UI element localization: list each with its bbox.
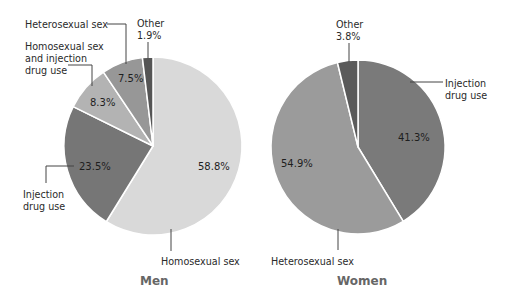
label-heterosexual-men: Heterosexual sex (25, 19, 108, 30)
label-homosexual-men: Homosexual sex (161, 256, 240, 267)
pct-injection-women: 41.3% (398, 132, 430, 143)
men-pie-chart (64, 57, 242, 235)
label-other-pct-women: 3.8% (336, 31, 360, 42)
women-title: Women (337, 274, 387, 288)
label-injection-women-line1: Injection (445, 78, 486, 89)
label-injection-women-line2: drug use (445, 90, 487, 101)
pct-homosexual-men: 58.8% (198, 161, 230, 172)
pie-charts-figure: Heterosexual sex Other 1.9% Homosexual s… (0, 0, 506, 303)
label-homo-inj-line1: Homosexual sex (25, 41, 104, 52)
label-other-men: Other (137, 18, 164, 29)
label-injection-men-line1: Injection (23, 189, 64, 200)
pct-homo-inj-men: 8.3% (90, 97, 115, 108)
men-title: Men (140, 274, 169, 288)
pct-heterosexual-women: 54.9% (281, 158, 313, 169)
label-homo-inj-line3: drug use (25, 65, 67, 76)
label-other-women: Other (336, 19, 363, 30)
label-homo-inj-line2: and injection (25, 53, 87, 64)
leader-heterosexual-men (107, 24, 126, 64)
label-heterosexual-women: Heterosexual sex (271, 256, 354, 267)
pct-heterosexual-men: 7.5% (118, 73, 143, 84)
pct-injection-men: 23.5% (79, 161, 111, 172)
leader-homo-inj-men (68, 65, 92, 86)
label-other-pct-men: 1.9% (137, 30, 161, 41)
women-pie-chart (271, 60, 445, 234)
label-injection-men-line2: drug use (23, 201, 65, 212)
